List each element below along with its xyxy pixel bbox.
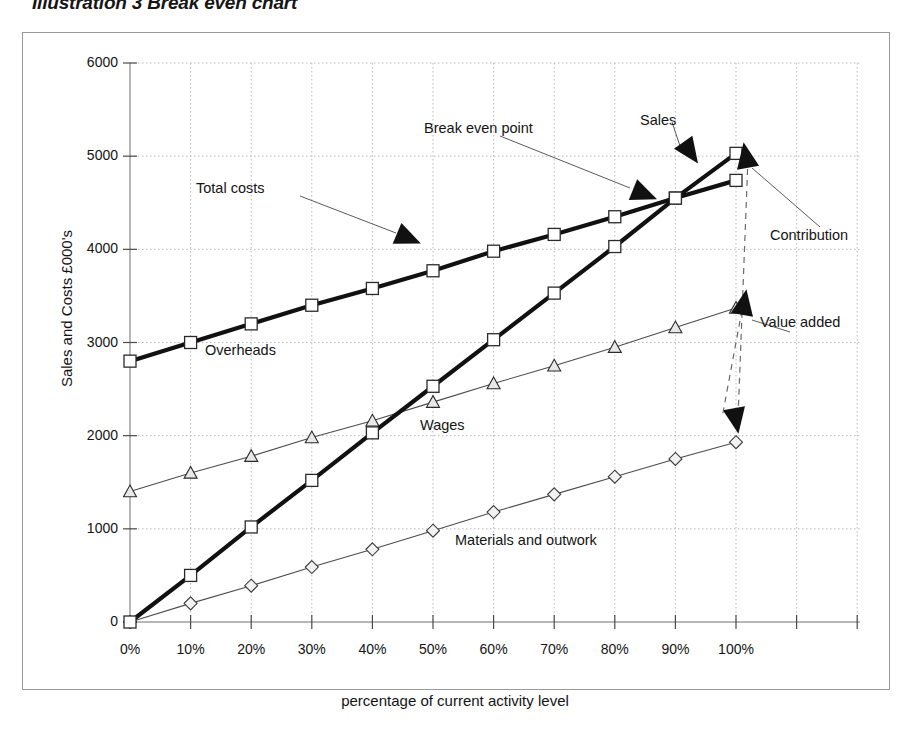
x-tick-label: 70% [524,642,584,656]
callout-contribution: Contribution [770,228,848,243]
x-tick-label: 90% [645,642,705,656]
label-wages: Wages [420,418,465,433]
marker-diamond [669,452,682,465]
marker-diamond [305,561,318,574]
x-tick-label: 10% [161,642,221,656]
marker-square [548,287,560,299]
x-axis-label: percentage of current activity level [0,692,910,709]
marker-square [245,318,257,330]
marker-square [124,616,136,628]
arrowhead-contribution-bottom [723,406,745,433]
y-tick-label: 1000 [42,521,118,535]
leader-break-even [500,136,630,188]
marker-square [245,521,257,533]
callout-sales: Sales [640,113,676,128]
callout-total-costs: Total costs [196,181,265,196]
arrowhead-break-even [629,179,657,200]
marker-triangle [669,321,682,333]
marker-triangle [245,450,258,462]
marker-triangle [366,414,379,426]
x-tick-label: 30% [282,642,342,656]
x-tick-label: 0% [100,642,160,656]
marker-square [427,265,439,277]
marker-square [366,282,378,294]
marker-square [730,174,742,186]
marker-square [609,241,621,253]
marker-diamond [366,543,379,556]
marker-square [488,334,500,346]
x-tick-label: 80% [585,642,645,656]
break-even-chart-plot [0,0,910,741]
marker-square [185,569,197,581]
callout-value-added: Value added [760,315,840,330]
x-tick-label: 20% [221,642,281,656]
leader-contribution-text [752,168,820,227]
marker-triangle [305,431,318,443]
label-overheads: Overheads [205,343,276,358]
marker-square [366,427,378,439]
marker-diamond [608,470,621,483]
x-tick-label: 50% [403,642,463,656]
marker-square [306,474,318,486]
marker-diamond [427,524,440,537]
chart-page: Illustration 3 Break even chart 01000200… [0,0,910,741]
arrowhead-total-costs [393,223,421,244]
marker-diamond [548,488,561,501]
marker-square [488,245,500,257]
y-tick-label: 6000 [42,55,118,69]
y-tick-label: 0 [42,614,118,628]
marker-square [306,299,318,311]
annotation-layer [300,122,820,434]
y-tick-label: 2000 [42,428,118,442]
marker-triangle [427,396,440,408]
marker-diamond [184,597,197,610]
x-tick-label: 60% [464,642,524,656]
marker-triangle [184,466,197,478]
y-tick-label: 5000 [42,148,118,162]
marker-triangle [548,359,561,371]
leader-contribution [738,158,748,418]
x-tick-label: 40% [342,642,402,656]
leader-total-costs [300,196,396,233]
marker-square [669,192,681,204]
y-tick-label: 4000 [42,241,118,255]
marker-square [124,355,136,367]
marker-diamond [245,579,258,592]
marker-diamond [487,506,500,519]
y-tick-label: 3000 [42,335,118,349]
marker-triangle [124,485,137,497]
marker-square [548,228,560,240]
arrowhead-contribution-top [737,142,759,169]
marker-square [427,380,439,392]
arrowhead-value-added-top [731,289,753,316]
marker-triangle [487,377,500,389]
marker-diamond [730,436,743,449]
marker-square [609,211,621,223]
label-materials-and-outwork: Materials and outwork [455,533,597,548]
y-axis-label: Sales and Costs £000's [58,209,75,409]
marker-square [185,337,197,349]
callout-break-even-point: Break even point [424,121,533,136]
x-tick-label: 100% [706,642,766,656]
